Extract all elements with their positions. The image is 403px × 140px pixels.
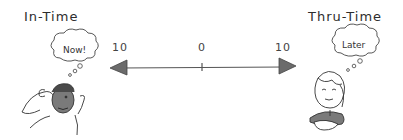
later-thought-text: Later — [342, 40, 366, 50]
arrow-left-icon — [110, 60, 127, 75]
thru-time-character — [310, 71, 345, 130]
arrow-right-icon — [279, 58, 296, 74]
in-time-character — [22, 84, 85, 135]
now-thought-text: Now! — [63, 45, 86, 55]
time-scale — [110, 58, 296, 75]
illustration: Now! Later — [0, 0, 403, 140]
